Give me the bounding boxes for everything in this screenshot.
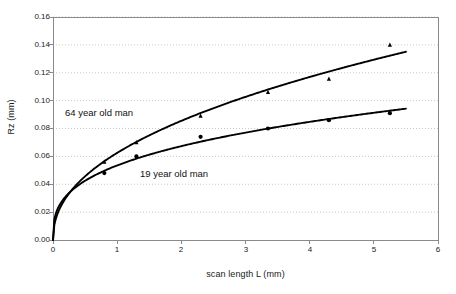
annotation-19-year-old-man: 19 year old man [140,168,208,179]
plot-area [0,0,456,294]
fitted-curves [53,52,406,240]
data-point-19-year-old-man [388,111,392,115]
data-point-19-year-old-man [198,135,202,139]
annotation-64-year-old-man: 64 year old man [65,107,133,118]
data-point-19-year-old-man [134,154,138,158]
axis-ticks [49,17,438,244]
data-point-19-year-old-man [327,118,331,122]
data-point-64-year-old-man [327,77,331,81]
data-point-64-year-old-man [388,42,392,46]
chart-figure: Rz (mm) 0.16 0.14 0.12 0.10 0.08 0.06 0.… [0,0,456,294]
data-point-19-year-old-man [266,126,270,130]
data-point-19-year-old-man [102,171,106,175]
fitted-curve-64-year-old-man [53,52,406,240]
